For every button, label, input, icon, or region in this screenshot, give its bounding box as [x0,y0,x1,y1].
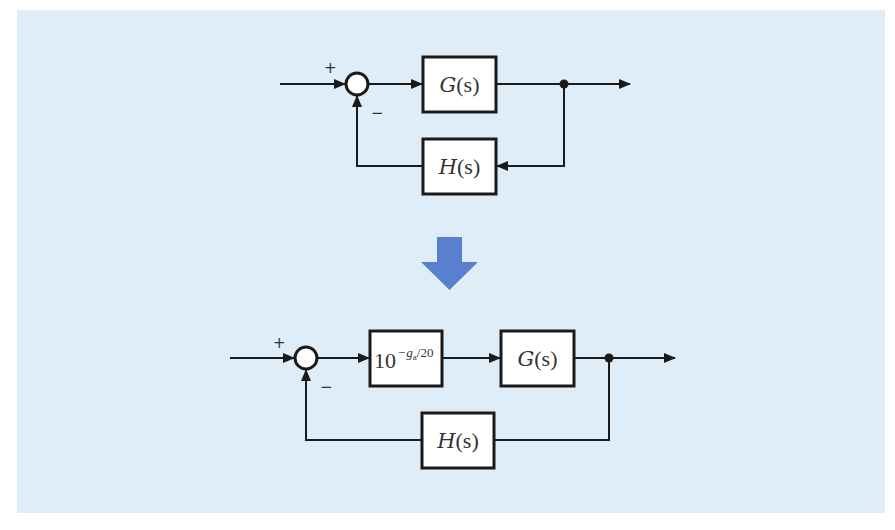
bottom-g-label: G(s) [518,346,558,371]
bottom-summing-junction [295,347,317,369]
top-minus-sign: − [371,104,384,122]
down-arrow-icon [421,237,478,290]
bottom-minus-sign: − [320,378,333,396]
block-diagrams: + − G(s) H(s) + − 10−ga/20 G(s) [0,0,895,530]
top-summing-junction [346,73,368,95]
top-g-label: G(s) [440,72,480,97]
top-feedback-to-sum-arrow [357,96,423,166]
top-plus-sign: + [324,59,337,77]
top-feedback-to-h-arrow [497,84,564,166]
bottom-h-label: H(s) [436,428,479,453]
bottom-plus-sign: + [273,334,286,352]
bottom-block-diagram: + − 10−ga/20 G(s) H(s) [230,331,675,468]
top-h-label: H(s) [438,154,481,179]
top-block-diagram: + − G(s) H(s) [280,57,630,194]
